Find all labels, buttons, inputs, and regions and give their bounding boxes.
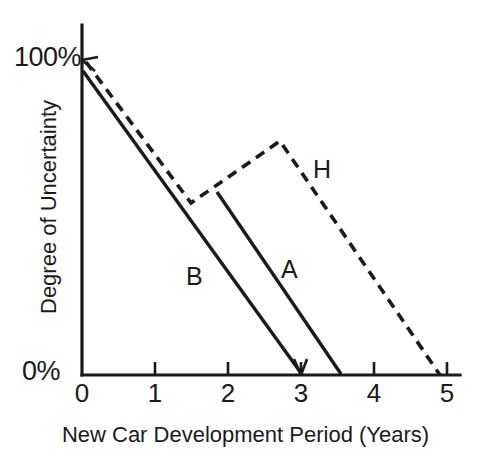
x-tick-label-1: 1 [135,380,175,406]
series-h-line [86,62,440,375]
y-axis-label-bottom: 0% [22,358,60,385]
series-label-a: A [281,257,298,282]
x-tick-label-4: 4 [354,380,394,406]
x-axis-title: New Car Development Period (Years) [0,424,491,446]
series-b-line [83,71,301,373]
series-label-b: B [186,264,203,289]
x-tick-label-0: 0 [62,380,102,406]
x-tick-label-2: 2 [208,380,248,406]
series-h [82,57,440,375]
x-tick-label-5: 5 [427,380,467,406]
chart-figure: 100% 0% Degree of Uncertainty 0 1 2 3 4 … [0,0,491,467]
y-axis-title: Degree of Uncertainty [38,92,60,322]
x-tick-label-3: 3 [281,380,321,406]
series-label-h: H [313,157,331,182]
series-b [83,71,307,375]
y-axis-label-top: 100% [14,44,81,71]
